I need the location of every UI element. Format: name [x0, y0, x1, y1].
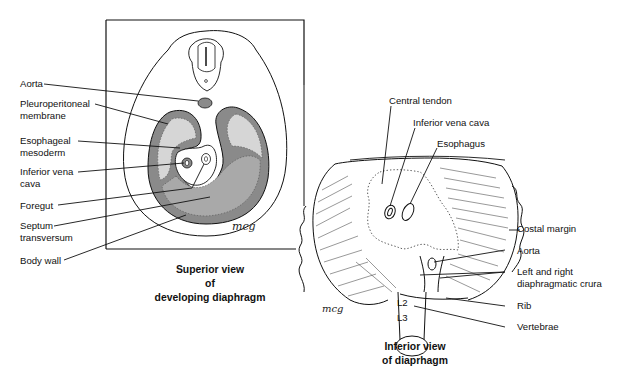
- label-aorta-right: Aorta: [517, 245, 540, 257]
- caption-line-2: of diaprhagm: [360, 354, 470, 368]
- label-central-tendon: Central tendon: [389, 95, 452, 107]
- label-costal-margin: Costal margin: [517, 223, 576, 235]
- label-inferior-vena-cava-right: Inferior vena cava: [413, 117, 489, 129]
- label-aorta-left: Aorta: [20, 78, 43, 90]
- inferior-diaphragm: [299, 85, 524, 356]
- caption-superior-view: Superior view of developing diaphragm: [140, 263, 280, 305]
- label-septum-transversum: Septum transversum: [20, 220, 73, 243]
- label-esophagus: Esophagus: [437, 138, 485, 150]
- label-vertebra-l3: L3: [397, 312, 408, 324]
- embryo-cross-section: mcg: [123, 31, 286, 236]
- caption-line-1: Inferior view: [360, 340, 470, 354]
- label-inferior-vena-cava-left: Inferior vena cava: [20, 166, 73, 189]
- caption-line-2: of: [140, 277, 280, 291]
- label-rib: Rib: [517, 300, 531, 312]
- label-foregut: Foregut: [20, 200, 53, 212]
- artist-signature-left: mcg: [232, 220, 256, 233]
- label-esophageal-mesoderm: Esophageal mesoderm: [20, 135, 71, 158]
- label-pleuroperitoneal-membrane: Pleuroperitoneal membrane: [20, 98, 90, 121]
- artist-signature-right: mcg: [322, 303, 343, 314]
- caption-inferior-view: Inferior view of diaprhagm: [360, 340, 470, 368]
- label-body-wall: Body wall: [20, 255, 61, 267]
- caption-line-1: Superior view: [140, 263, 280, 277]
- label-vertebrae: Vertebrae: [517, 321, 559, 333]
- caption-line-3: developing diaphragm: [140, 291, 280, 305]
- label-diaphragmatic-crura: Left and right diaphragmatic crura: [517, 266, 602, 289]
- label-vertebra-l2: L2: [397, 297, 408, 309]
